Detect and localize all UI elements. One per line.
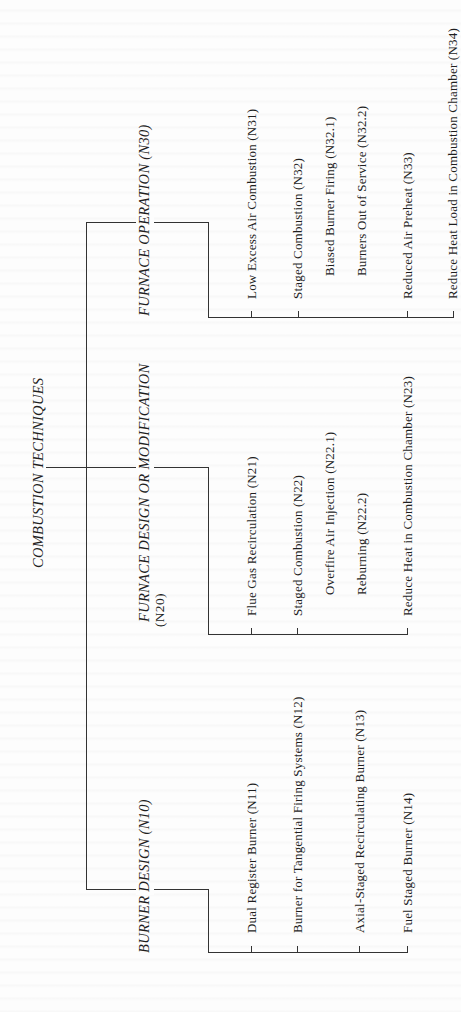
diagram-page: COMBUSTION TECHNIQUES FURNACE OPERATION … [0,0,461,1012]
category-label-n30: FURNACE OPERATION (N30) [137,124,152,316]
leaf-n22-1: Overfire Air Injection (N22.1) [323,432,336,595]
leaf-n33: Reduced Air Preheat (N33) [401,152,414,299]
n11-tick [251,946,252,952]
n34-tick [453,311,454,317]
leaf-n32: Staged Combustion (N32) [291,158,304,299]
leaf-n22: Staged Combustion (N22) [291,475,304,616]
n12-tick [297,946,298,952]
root-label: COMBUSTION TECHNIQUES [31,378,46,568]
category-label-n10: BURNER DESIGN (N10) [137,799,152,953]
leaf-n11: Dual Register Burner (N11) [245,783,258,933]
n13-tick [359,946,360,952]
page-bleed-through [0,0,461,1012]
leaf-n22-2: Reburning (N22.2) [355,493,368,595]
n22-tick [297,628,298,634]
leaf-n12: Burner for Tangential Firing Systems (N1… [291,696,304,933]
n20-leaf-bus [208,634,408,635]
leaf-n34: Reduce Heat Load in Combustion Chamber (… [446,28,459,299]
leaf-n32-1: Biased Burner Firing (N32.1) [323,117,336,276]
category-label-n20-line1: FURNACE DESIGN OR MODIFICATION [137,363,152,622]
n31-tick [251,311,252,317]
leaf-n23: Reduce Heat in Combustion Chamber (N23) [401,376,414,616]
category-label-n20-line2: (N20) [153,593,167,627]
n10-leaf-bus [208,952,408,953]
root-connector-line [46,467,209,468]
n30-drop-line [208,222,209,318]
n21-tick [251,628,252,634]
leaf-n32-2: Burners Out of Service (N32.2) [355,106,368,276]
leaf-n21: Flue Gas Recirculation (N21) [245,456,258,616]
trunk-line [86,222,87,890]
n30-leaf-bus [208,317,454,318]
leaf-n14: Fuel Staged Burner (N14) [401,793,414,933]
n23-tick [407,628,408,634]
n20-drop-line [208,467,209,635]
leaf-n31: Low Excess Air Combustion (N31) [245,109,258,299]
n14-tick [407,946,408,952]
n10-drop-line [208,889,209,953]
leaf-n13: Axial-Staged Recirculating Burner (N13) [353,710,366,933]
n33-tick [407,311,408,317]
n32-tick [298,311,299,317]
